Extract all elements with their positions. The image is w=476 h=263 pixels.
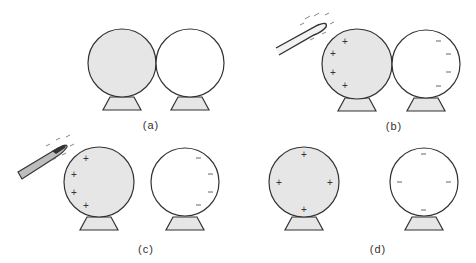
left-stand xyxy=(103,97,141,110)
left-sphere xyxy=(88,29,156,97)
panel-a xyxy=(88,29,224,110)
svg-text:+: + xyxy=(301,204,307,215)
left-stand xyxy=(338,98,376,111)
left-sphere xyxy=(322,29,392,99)
left-stand xyxy=(285,217,323,230)
right-stand xyxy=(405,217,443,230)
panel-label-a: (a) xyxy=(143,119,159,131)
svg-text:+: + xyxy=(301,149,307,160)
right-stand xyxy=(166,217,204,230)
right-sphere xyxy=(392,30,460,98)
svg-text:+: + xyxy=(330,67,336,78)
panel-label-c: (c) xyxy=(138,243,154,255)
panel-c: + + + + xyxy=(18,135,219,230)
svg-text:+: + xyxy=(327,177,333,188)
svg-text:+: + xyxy=(342,80,348,91)
svg-text:+: + xyxy=(330,48,336,59)
left-stand xyxy=(80,217,118,230)
svg-text:+: + xyxy=(71,187,77,198)
svg-text:+: + xyxy=(71,169,77,180)
svg-text:+: + xyxy=(276,177,282,188)
panel-d: + + + + xyxy=(269,147,458,230)
electrostatic-induction-diagram: + + + + xyxy=(0,0,476,263)
right-sphere xyxy=(151,148,219,216)
right-stand xyxy=(407,98,445,111)
right-sphere xyxy=(156,29,224,97)
left-sphere xyxy=(64,147,134,217)
svg-text:+: + xyxy=(83,153,89,164)
panel-label-d: (d) xyxy=(370,243,386,255)
svg-text:+: + xyxy=(83,200,89,211)
right-stand xyxy=(171,97,209,110)
panel-b: + + + + xyxy=(276,13,460,111)
svg-text:+: + xyxy=(342,36,348,47)
panel-label-b: (b) xyxy=(386,120,402,132)
